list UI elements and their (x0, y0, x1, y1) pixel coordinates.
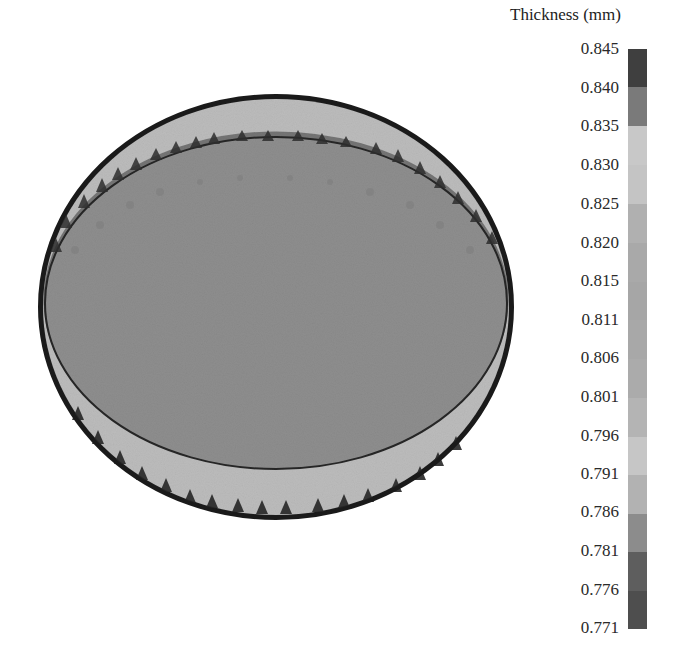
colorbar-band (628, 320, 647, 359)
colorbar-band (628, 126, 647, 165)
colorbar-tick: 0.835 (581, 116, 619, 136)
colorbar-tick: 0.786 (581, 502, 619, 522)
colorbar-band (628, 398, 647, 437)
colorbar-title: Thickness (mm) (510, 5, 621, 25)
colorbar-tick: 0.796 (581, 426, 619, 446)
colorbar-tick: 0.791 (581, 464, 619, 484)
colorbar-tick: 0.781 (581, 541, 619, 561)
colorbar-band (628, 282, 647, 320)
colorbar-tick: 0.845 (581, 39, 619, 59)
colorbar-tick: 0.771 (581, 618, 619, 638)
colorbar (628, 49, 647, 629)
colorbar-tick: 0.776 (581, 580, 619, 600)
colorbar-band (628, 204, 647, 243)
colorbar-band (628, 165, 647, 204)
colorbar-tick: 0.815 (581, 271, 619, 291)
colorbar-tick: 0.806 (581, 348, 619, 368)
colorbar-band (628, 514, 647, 552)
thickness-contour-plot (0, 0, 600, 657)
colorbar-band (628, 437, 647, 475)
colorbar-tick: 0.830 (581, 155, 619, 175)
colorbar-band (628, 87, 647, 126)
colorbar-band (628, 591, 647, 629)
colorbar-band (628, 475, 647, 514)
colorbar-tick: 0.801 (581, 387, 619, 407)
colorbar-band (628, 359, 647, 398)
colorbar-band (628, 49, 647, 87)
colorbar-tick: 0.811 (581, 310, 619, 330)
colorbar-tick: 0.825 (581, 194, 619, 214)
colorbar-tick: 0.840 (581, 78, 619, 98)
colorbar-tick: 0.820 (581, 233, 619, 253)
colorbar-band (628, 552, 647, 591)
colorbar-band (628, 243, 647, 282)
